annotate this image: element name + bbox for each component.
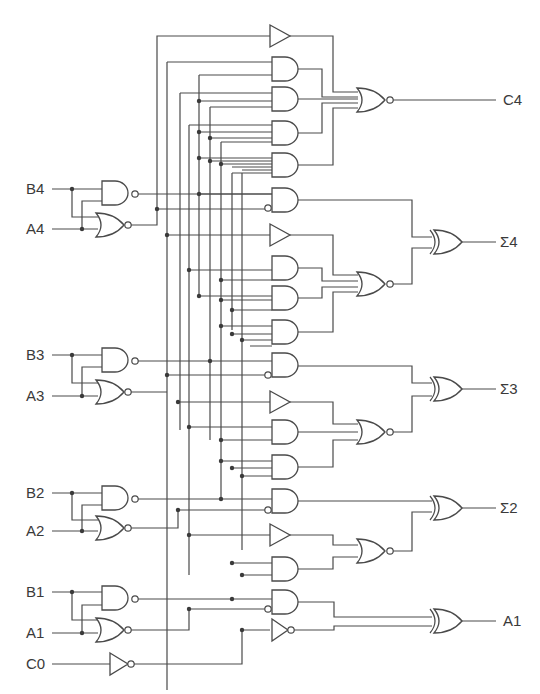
input-stage-2	[52, 486, 138, 540]
c0-inverter	[52, 653, 134, 675]
input-label-b2: B2	[26, 485, 44, 500]
input-label-b4: B4	[26, 181, 44, 196]
input-stage-4	[52, 181, 138, 237]
circuit-diagram	[0, 0, 540, 694]
input-label-c0: C0	[26, 656, 45, 671]
sum-4-logic	[165, 188, 496, 346]
signal-bus	[131, 36, 272, 690]
input-stage-1	[52, 586, 138, 642]
output-label-a1: A1	[503, 613, 521, 628]
output-label-sum2: Σ2	[500, 500, 518, 515]
input-label-a3: A3	[26, 388, 44, 403]
input-label-a4: A4	[26, 221, 44, 236]
sum-1-logic	[131, 590, 496, 664]
sum-2-logic	[131, 489, 496, 581]
carry-c4-logic	[270, 25, 496, 177]
output-label-c4: C4	[503, 92, 522, 107]
output-label-sum3: Σ3	[500, 381, 518, 396]
input-stage-3	[52, 348, 138, 404]
input-label-b3: B3	[26, 347, 44, 362]
input-label-a2: A2	[26, 523, 44, 538]
input-label-b1: B1	[26, 584, 44, 599]
output-label-sum4: Σ4	[500, 234, 518, 249]
input-label-a1: A1	[26, 625, 44, 640]
sum-3-logic	[131, 353, 496, 479]
